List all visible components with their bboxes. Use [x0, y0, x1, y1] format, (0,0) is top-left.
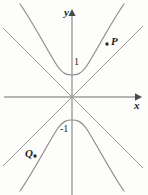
asymptote-positive-slope-line: [3, 26, 143, 166]
point-P-marker: [105, 42, 108, 45]
asymptote-negative-slope-line: [3, 28, 143, 168]
point-P-label: P: [111, 36, 118, 47]
y-axis-label: y: [64, 7, 69, 18]
x-axis-label: x: [134, 100, 140, 111]
y-tick-negative-one-label: -1: [60, 124, 68, 134]
point-Q-label: Q: [25, 148, 33, 159]
point-Q-marker: [33, 154, 36, 157]
y-axis-arrowhead-icon: [68, 9, 75, 16]
y-tick-positive-one-label: 1: [74, 57, 79, 67]
hyperbola-figure: y x P Q 1 -1: [0, 0, 148, 195]
figure-canvas: [0, 0, 148, 195]
